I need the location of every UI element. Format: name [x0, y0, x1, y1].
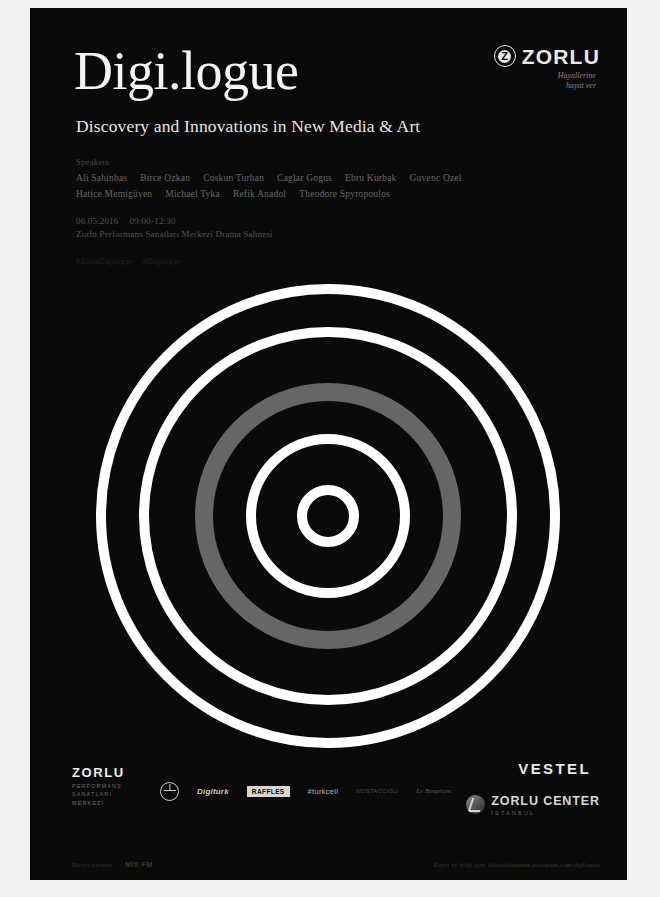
sponsor-name: #turkcell: [308, 787, 339, 796]
sponsor-logo: RAFFLES: [247, 782, 290, 800]
speaker-name: Theodore Spyropoulos: [299, 189, 390, 199]
zorlu-wordmark: ZORLU: [522, 46, 600, 67]
sponsor-logo: Digiturk: [197, 782, 229, 800]
header-block: Digi.logue Discovery and Innovations in …: [74, 44, 544, 266]
sponsor-name: RAFFLES: [247, 786, 290, 797]
ring-1: [96, 284, 560, 748]
ring-3: [195, 383, 461, 649]
hashtag: #Digilogue: [143, 257, 181, 266]
event-time: 09:00-12:30: [130, 216, 176, 226]
zorlu-center-city: İSTANBUL: [491, 811, 600, 817]
vestel-logo: VESTEL: [518, 760, 591, 777]
event-date: 06.05.2016: [76, 216, 119, 226]
footer: ZORLU PERFORMANS SANATLARI MERKEZİ Digit…: [30, 760, 627, 880]
registration-line: Kayıt ve bilgi için: dijitaldonusum.zorl…: [434, 861, 600, 868]
psm-sub-line2: SANATLARI: [72, 790, 125, 798]
hashtags: #ZorluDigilogue#Digilogue: [76, 257, 544, 266]
footer-baseline: Medya partneri MİX FM Kayıt ve bilgi içi…: [30, 861, 627, 873]
sponsor-name: MOSTACCIOLI: [356, 788, 398, 794]
zorlu-center-text: ZORLU CENTER İSTANBUL: [491, 792, 600, 817]
psm-subtitle: PERFORMANS SANATLARI MERKEZİ: [72, 782, 125, 807]
speaker-name: Michael Tyka: [165, 189, 220, 199]
media-partners: Medya partneri MİX FM: [72, 861, 153, 868]
speaker-name: Birce Ozkan: [140, 173, 190, 183]
sponsor-strip: Digiturk RAFFLES #turkcell MOSTACCIOLI L…: [160, 782, 451, 800]
event-venue: Zorlu Performans Sanatları Merkezi Drama…: [76, 229, 544, 239]
psm-sub-line1: PERFORMANS: [72, 782, 125, 790]
speakers-row-1: Ali SahinbasBirce OzkanCoskun TurhanCagl…: [76, 173, 544, 183]
media-partner-name: MİX FM: [125, 861, 153, 868]
speaker-name: Hatice Memigüven: [76, 189, 152, 199]
speaker-name: Coskun Turhan: [203, 173, 264, 183]
speakers-label: Speakers: [76, 157, 544, 167]
sponsor-name: Digiturk: [197, 787, 229, 796]
zorlu-center-logo: ZORLU CENTER İSTANBUL: [466, 792, 600, 817]
speaker-name: Ebru Kurbak: [345, 173, 397, 183]
ring-5: [297, 485, 359, 547]
event-datetime: 06.05.201609:00-12:30: [76, 216, 544, 226]
sponsor-logo: #turkcell: [308, 782, 339, 800]
zorlu-tagline-line2: hayat ver: [494, 81, 596, 91]
zorlu-center-name: ZORLU CENTER: [491, 794, 600, 808]
psm-wordmark: ZORLU: [72, 766, 125, 779]
poster-page: Digi.logue Discovery and Innovations in …: [0, 0, 660, 897]
hashtag: #ZorluDigilogue: [76, 257, 133, 266]
zorlu-logo-main: Z ZORLU: [494, 45, 600, 67]
subtitle: Discovery and Innovations in New Media &…: [76, 116, 544, 137]
zorlu-psm-logo: ZORLU PERFORMANS SANATLARI MERKEZİ: [72, 766, 125, 807]
speaker-name: Guvenc Ozel: [410, 173, 462, 183]
speaker-name: Ali Sahinbas: [76, 173, 127, 183]
page-title: Digi.logue: [74, 44, 544, 98]
speaker-name: Refik Anadol: [233, 189, 286, 199]
sponsor-name: Le Bosphore: [416, 787, 451, 795]
zorlu-logo: Z ZORLU Hayallerine hayat ver: [494, 45, 600, 91]
psm-sub-line3: MERKEZİ: [72, 799, 125, 807]
sponsor-logo: [160, 782, 179, 800]
media-partners-label: Medya partneri: [72, 862, 113, 868]
mercedes-star-icon: [160, 782, 179, 801]
ring-4: [246, 434, 410, 598]
zorlu-tagline-line1: Hayallerine: [494, 71, 596, 81]
sponsor-logo: Le Bosphore: [416, 782, 451, 800]
ring-2: [139, 327, 517, 705]
sponsor-logo: MOSTACCIOLI: [356, 782, 398, 800]
zorlu-z-mark-icon: Z: [494, 45, 516, 67]
zorlu-tagline: Hayallerine hayat ver: [494, 71, 596, 91]
poster-canvas: Digi.logue Discovery and Innovations in …: [30, 8, 627, 880]
zorlu-center-mark-icon: [466, 795, 485, 814]
speakers-row-2: Hatice MemigüvenMichael TykaRefik Anadol…: [76, 189, 544, 199]
zorlu-z-glyph: Z: [501, 51, 508, 62]
speaker-name: Caglar Gogus: [277, 173, 332, 183]
